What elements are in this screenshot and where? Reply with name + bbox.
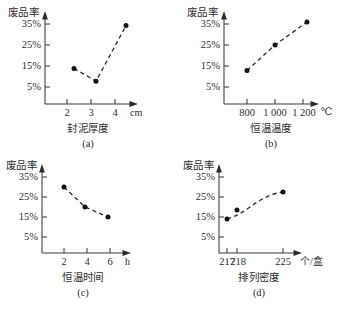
panel-caption-a: (a) (43, 139, 133, 150)
panel-caption-d: (d) (214, 288, 304, 299)
x-axis-title-a: 封泥厚度 (43, 124, 133, 135)
data-point-c-3 (106, 215, 111, 220)
data-point-c-1 (62, 185, 67, 190)
data-point-b-3 (305, 20, 310, 25)
data-point-d-1 (225, 217, 230, 222)
data-line-a (74, 26, 126, 82)
y-tick-label-a-25: 25% (10, 40, 41, 51)
x-tick-label-d-3: 225 (271, 257, 295, 268)
chart-panel-b: 废品率 35% 25% 15% 5% 800 1 000 1 200 ℃ 恒温温… (171, 0, 342, 154)
x-unit-label-c: h (125, 257, 130, 267)
chart-panel-c: 废品率 35% 25% 15% 5% 2 4 6 h 恒温时间 (c) (0, 155, 171, 309)
y-tick-label-b-25: 25% (189, 40, 220, 51)
x-axis-title-b: 恒温温度 (226, 124, 316, 135)
panel-caption-b: (b) (226, 139, 316, 150)
data-point-a-1 (72, 66, 77, 71)
y-axis-arrow-a (42, 11, 48, 20)
y-tick-label-d-25: 25% (184, 192, 215, 203)
y-axis-title-b: 废品率 (187, 8, 218, 19)
chart-panel-d: 废品率 35% 25% 15% 5% 217 218 225 个/盒 排列密度 … (171, 155, 342, 309)
y-tick-label-b-15: 15% (189, 61, 220, 72)
y-axis-title-d: 废品率 (183, 161, 214, 172)
y-axis-title-a: 废品率 (8, 8, 39, 19)
y-tick-label-a-15: 15% (10, 61, 41, 72)
y-tick-label-c-35: 35% (7, 172, 38, 183)
data-point-a-2 (94, 79, 99, 84)
figure-grid: 废品率 35% 25% 15% 5% 2 3 4 cm 封泥厚度 (a) (0, 0, 342, 309)
x-tick-label-a-1: 2 (57, 108, 77, 119)
data-point-b-1 (245, 68, 250, 73)
y-tick-label-c-25: 25% (7, 192, 38, 203)
data-line-d (227, 192, 283, 219)
x-tick-label-b-1: 800 (234, 108, 260, 119)
y-tick-label-a-35: 35% (10, 19, 41, 30)
y-tick-label-d-35: 35% (184, 172, 215, 183)
y-tick-label-d-15: 15% (184, 212, 215, 223)
x-tick-label-c-3: 6 (100, 257, 120, 268)
x-tick-label-a-2: 3 (81, 108, 101, 119)
y-tick-label-c-5: 5% (7, 232, 38, 243)
data-point-c-2 (83, 205, 88, 210)
x-unit-label-b: ℃ (321, 107, 332, 117)
y-axis-arrow-d (216, 164, 222, 173)
y-tick-label-b-35: 35% (189, 19, 220, 30)
data-line-c (64, 187, 108, 217)
x-axis-title-c: 恒温时间 (38, 273, 128, 284)
x-tick-label-d-2: 218 (226, 257, 250, 268)
data-point-d-3 (281, 190, 286, 195)
panel-caption-c: (c) (38, 288, 128, 299)
y-tick-label-a-5: 5% (10, 82, 41, 93)
data-point-d-2 (235, 208, 240, 213)
data-point-b-2 (273, 43, 278, 48)
x-tick-label-b-3: 1 200 (288, 108, 320, 119)
chart-panel-a: 废品率 35% 25% 15% 5% 2 3 4 cm 封泥厚度 (a) (0, 0, 171, 154)
y-axis-title-c: 废品率 (6, 161, 37, 172)
x-tick-label-b-2: 1 000 (259, 108, 291, 119)
y-axis-arrow-b (221, 11, 227, 20)
y-axis-arrow-c (39, 164, 45, 173)
x-tick-label-c-2: 4 (77, 257, 97, 268)
x-unit-label-d: 个/盒 (300, 257, 323, 267)
x-tick-label-a-3: 4 (105, 108, 125, 119)
x-tick-label-c-1: 2 (54, 257, 74, 268)
y-tick-label-d-5: 5% (184, 232, 215, 243)
data-point-a-3 (124, 23, 129, 28)
x-unit-label-a: cm (130, 108, 142, 118)
y-tick-label-c-15: 15% (7, 212, 38, 223)
x-axis-title-d: 排列密度 (214, 273, 304, 284)
y-tick-label-b-5: 5% (189, 82, 220, 93)
